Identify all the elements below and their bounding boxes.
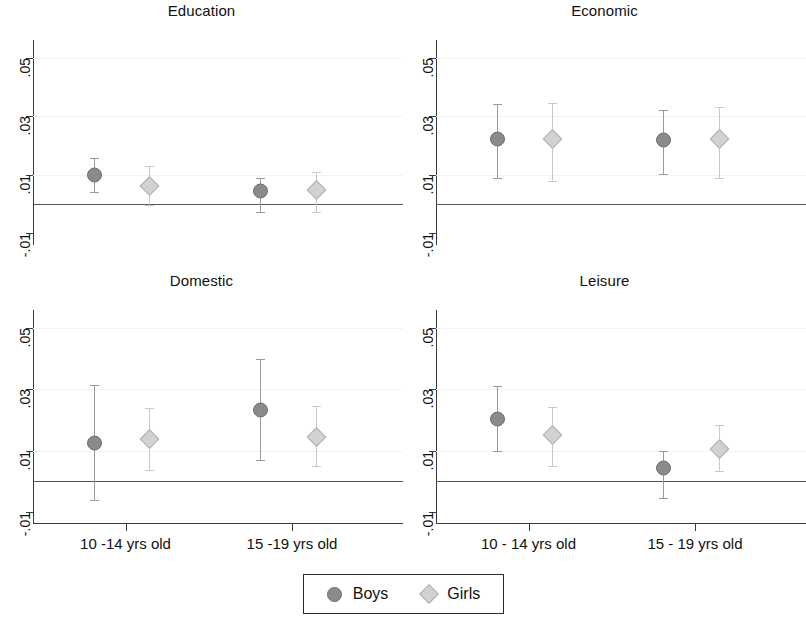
ci-cap-upper — [312, 172, 321, 173]
ci-cap-upper — [145, 166, 154, 167]
ci-cap-upper — [493, 104, 502, 105]
girls-diamond-icon — [306, 427, 326, 447]
gridline — [33, 389, 403, 390]
ci-cap-upper — [90, 385, 99, 386]
x-axis-tick — [695, 524, 696, 531]
panel-leisure: Leisure .05.03.01-.0110 - 14 yrs old15 -… — [403, 272, 806, 562]
x-axis-tick — [126, 524, 127, 531]
girls-diamond-icon — [709, 439, 729, 459]
boys-circle-icon — [87, 167, 102, 182]
gridline — [33, 328, 403, 329]
legend: Boys Girls — [303, 574, 504, 614]
zero-reference-line — [33, 204, 403, 205]
ci-cap-lower — [493, 451, 502, 452]
ci-cap-lower — [256, 460, 265, 461]
gridline — [33, 58, 403, 59]
ci-cap-upper — [145, 408, 154, 409]
ci-cap-upper — [312, 406, 321, 407]
data-point-boys — [497, 310, 498, 524]
x-axis — [33, 523, 403, 524]
gridline — [436, 175, 806, 176]
gridline — [436, 116, 806, 117]
gridline — [33, 451, 403, 452]
panel-education: Education .05.03.01-.01 — [0, 2, 403, 260]
boys-circle-icon — [656, 460, 671, 475]
ci-cap-lower — [312, 466, 321, 467]
zero-reference-line — [436, 481, 806, 482]
ci-cap-upper — [548, 407, 557, 408]
gridline — [436, 58, 806, 59]
x-axis-tick — [529, 524, 530, 531]
ci-cap-upper — [256, 178, 265, 179]
data-point-boys — [497, 40, 498, 245]
ci-cap-upper — [715, 425, 724, 426]
panel-economic: Economic .05.03.01-.01 — [403, 2, 806, 260]
data-point-girls — [552, 40, 553, 245]
plot-area-leisure: .05.03.01-.0110 - 14 yrs old15 - 19 yrs … — [436, 310, 806, 524]
data-point-boys — [94, 40, 95, 245]
ci-cap-upper — [659, 451, 668, 452]
ci-cap-lower — [90, 500, 99, 501]
gridline — [436, 451, 806, 452]
girls-diamond-icon — [419, 584, 439, 604]
data-point-girls — [719, 40, 720, 245]
panel-title-domestic: Domestic — [0, 272, 403, 289]
plot-area-domestic: .05.03.01-.0110 -14 yrs old15 -19 yrs ol… — [33, 310, 403, 524]
boys-circle-icon — [327, 587, 342, 602]
ci-cap-lower — [548, 466, 557, 467]
plot-area-economic: .05.03.01-.01 — [436, 40, 806, 245]
legend-label-girls: Girls — [447, 585, 480, 603]
girls-diamond-icon — [306, 180, 326, 200]
data-point-boys — [260, 310, 261, 524]
x-axis-tick-label: 10 -14 yrs old — [80, 535, 171, 552]
panel-title-leisure: Leisure — [403, 272, 806, 289]
gridline — [33, 116, 403, 117]
x-axis-tick-label: 15 - 19 yrs old — [647, 535, 742, 552]
boys-circle-icon — [253, 403, 268, 418]
panel-title-economic: Economic — [403, 2, 806, 19]
ci-cap-upper — [548, 103, 557, 104]
data-point-girls — [316, 40, 317, 245]
x-axis-tick-label: 15 -19 yrs old — [247, 535, 338, 552]
panel-title-education: Education — [0, 2, 403, 19]
plot-area-education: .05.03.01-.01 — [33, 40, 403, 245]
gridline — [436, 328, 806, 329]
data-point-girls — [719, 310, 720, 524]
data-point-girls — [552, 310, 553, 524]
girls-diamond-icon — [709, 129, 729, 149]
ci-cap-upper — [256, 359, 265, 360]
girls-diamond-icon — [140, 176, 160, 196]
legend-item-boys: Boys — [327, 585, 389, 603]
boys-circle-icon — [253, 184, 268, 199]
zero-reference-line — [436, 204, 806, 205]
ci-cap-lower — [659, 174, 668, 175]
ci-cap-lower — [548, 181, 557, 182]
data-point-boys — [663, 40, 664, 245]
ci-cap-lower — [493, 178, 502, 179]
data-point-boys — [94, 310, 95, 524]
ci-cap-upper — [659, 110, 668, 111]
ci-cap-lower — [256, 212, 265, 213]
data-point-girls — [316, 310, 317, 524]
ci-cap-lower — [90, 192, 99, 193]
girls-diamond-icon — [140, 429, 160, 449]
boys-circle-icon — [656, 132, 671, 147]
boys-circle-icon — [87, 435, 102, 450]
ci-cap-lower — [715, 178, 724, 179]
ci-cap-lower — [312, 212, 321, 213]
ci-cap-lower — [145, 205, 154, 206]
ci-cap-lower — [659, 498, 668, 499]
data-point-girls — [149, 40, 150, 245]
data-point-boys — [663, 310, 664, 524]
panel-domestic: Domestic .05.03.01-.0110 -14 yrs old15 -… — [0, 272, 403, 562]
ci-cap-upper — [493, 386, 502, 387]
data-point-boys — [260, 40, 261, 245]
x-axis-tick-label: 10 - 14 yrs old — [481, 535, 576, 552]
ci-cap-upper — [715, 107, 724, 108]
ci-cap-lower — [145, 470, 154, 471]
figure-coefficient-plots: Education .05.03.01-.01 Economic .05.03.… — [0, 0, 806, 621]
ci-cap-upper — [90, 158, 99, 159]
legend-label-boys: Boys — [353, 585, 389, 603]
x-axis-tick — [292, 524, 293, 531]
girls-diamond-icon — [543, 425, 563, 445]
